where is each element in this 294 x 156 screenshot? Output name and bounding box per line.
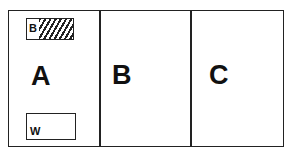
panel-c-label: C (209, 62, 229, 89)
divider-b-c (190, 10, 192, 147)
divider-a-b (99, 10, 101, 147)
black-inset-label: B (29, 22, 37, 34)
black-inset-box: B (26, 18, 74, 40)
white-inset-label: W (30, 125, 40, 137)
white-inset-box: W (26, 113, 76, 140)
panel-a-label: A (31, 63, 51, 90)
panel-b-label: B (112, 62, 132, 89)
hatch-pattern (39, 19, 73, 39)
